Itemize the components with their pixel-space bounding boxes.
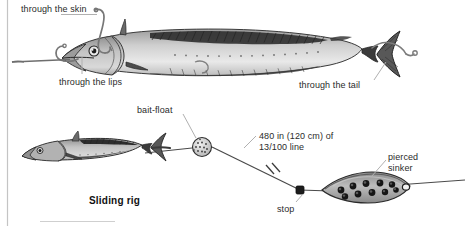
label-bait-float: bait-float: [137, 105, 173, 115]
label-stop: stop: [277, 204, 294, 214]
label-through-the-tail: through the tail: [299, 80, 360, 90]
label-pierced: pierced: [388, 152, 418, 162]
page-rules: [8, 0, 116, 226]
pierced-sinker: [322, 172, 410, 203]
label-through-the-lips: through the lips: [59, 77, 122, 87]
figure-artwork: [0, 0, 465, 226]
bait-fish-small: [22, 131, 170, 161]
label-sinker: sinker: [388, 163, 413, 173]
figure-title-sliding-rig: Sliding rig: [89, 195, 140, 206]
bait-float: [193, 138, 212, 157]
figure-canvas: through the skin through the lips throug…: [0, 0, 465, 226]
label-line-spec-line1: 480 in (120 cm) of: [259, 131, 333, 141]
label-line-spec-line2: 13/100 line: [259, 142, 304, 152]
line-stop: [296, 186, 304, 194]
upper-bait-fish: [12, 8, 417, 80]
label-through-the-skin: through the skin: [21, 4, 87, 14]
